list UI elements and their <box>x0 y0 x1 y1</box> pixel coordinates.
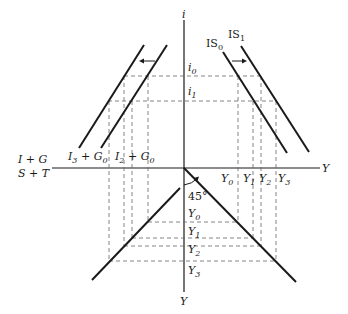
is1-label: IS1 <box>228 28 245 43</box>
angle-label: 45° <box>188 190 208 203</box>
i3-g0-label: I3 + G0 <box>67 150 108 165</box>
shift-left-arrow-icon <box>139 59 155 64</box>
i2-g0-label: I2 + G0 <box>114 150 155 165</box>
y0-vertical-label: Y0 <box>188 207 200 222</box>
horizontal-axis-right-label: Y <box>322 162 331 175</box>
y1-horizontal-label: Y1 <box>243 172 255 187</box>
horizontal-axis-left-label-top: I + G <box>17 153 48 166</box>
is-curve-diagram: i Y Y I + G S + T 45° i0 i1 IS0 <box>0 0 348 314</box>
vertical-axis-bottom-label: Y <box>180 295 189 308</box>
savings-tax-line <box>92 188 180 280</box>
vertical-axis-top-label: i <box>182 8 186 21</box>
y2-horizontal-label: Y2 <box>259 172 271 187</box>
y1-vertical-label: Y1 <box>188 225 200 240</box>
y2-vertical-label: Y2 <box>188 243 200 258</box>
i0-label: i0 <box>188 61 197 76</box>
y0-horizontal-label: Y0 <box>221 172 233 187</box>
i1-label: i1 <box>188 85 197 100</box>
forty-five-degree-line <box>184 168 296 282</box>
horizontal-axis-left-label-bottom: S + T <box>18 167 51 180</box>
y3-horizontal-label: Y3 <box>278 172 290 187</box>
y3-vertical-label: Y3 <box>188 264 200 279</box>
shift-right-arrow-icon <box>232 59 247 64</box>
is0-label: IS0 <box>206 37 223 52</box>
is1-curve <box>241 46 309 152</box>
